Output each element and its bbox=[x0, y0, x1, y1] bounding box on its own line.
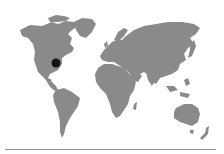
landmass-new-zealand bbox=[200, 126, 209, 140]
landmass-tasmania bbox=[190, 130, 194, 134]
landmass-madagascar bbox=[133, 102, 137, 110]
landmass-southeast-asia-islands bbox=[166, 78, 190, 98]
world-map bbox=[0, 0, 224, 154]
landmass-australia bbox=[174, 104, 200, 126]
landmass-greenland bbox=[74, 18, 96, 38]
landmass-south-america bbox=[53, 88, 80, 138]
bottom-divider bbox=[5, 149, 216, 150]
landmass-central-america bbox=[46, 80, 58, 91]
landmass-north-america bbox=[20, 21, 78, 83]
location-dot-icon[interactable] bbox=[52, 59, 61, 68]
landmass-india bbox=[146, 72, 156, 86]
landmass-arctic-islands bbox=[48, 15, 70, 22]
landmasses bbox=[20, 15, 209, 140]
